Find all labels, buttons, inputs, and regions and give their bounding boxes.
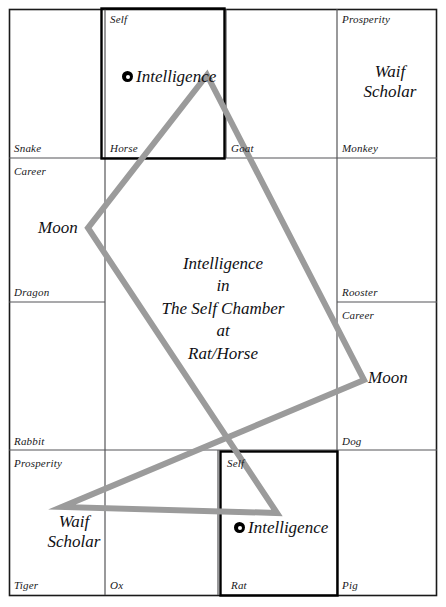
star-waif-scholar-monkey: Waif Scholar: [347, 62, 433, 102]
palace-label-self-horse: Self: [110, 14, 127, 25]
star-waif-scholar-tiger: Waif Scholar: [26, 512, 122, 552]
star-moon-rooster: Moon: [368, 368, 408, 387]
star-name-moon-left: Moon: [38, 218, 78, 237]
star-name-intelligence-top: Intelligence: [136, 68, 216, 85]
star-intelligence-rat: Intelligence: [234, 519, 328, 536]
caption-line-5: Rat/Horse: [113, 343, 333, 365]
caption-line-4: at: [113, 320, 333, 342]
star-name-waif-top: Waif: [347, 62, 433, 82]
palace-label-career-rooster: Career: [342, 310, 374, 321]
sun-disc-icon: [234, 522, 245, 533]
palace-label-career-dragon: Career: [14, 166, 46, 177]
branch-label-pig: Pig: [342, 580, 358, 591]
palace-label-self-rat: Self: [227, 458, 244, 469]
caption-line-2: in: [113, 275, 333, 297]
star-name-scholar-top: Scholar: [347, 82, 433, 102]
center-caption: Intelligence in The Self Chamber at Rat/…: [113, 253, 333, 365]
branch-label-ox: Ox: [110, 580, 123, 591]
star-intelligence-horse: Intelligence: [122, 68, 216, 85]
caption-line-1: Intelligence: [113, 253, 333, 275]
palace-label-prosperity-monkey: Prosperity: [342, 14, 390, 25]
branch-label-rooster: Rooster: [342, 287, 378, 298]
palace-label-prosperity-tiger: Prosperity: [14, 458, 62, 469]
branch-label-goat: Goat: [231, 143, 254, 154]
branch-label-tiger: Tiger: [14, 580, 38, 591]
branch-label-dragon: Dragon: [14, 287, 49, 298]
star-name-moon-right: Moon: [368, 368, 408, 387]
sun-disc-icon: [122, 71, 133, 82]
caption-line-3: The Self Chamber: [113, 298, 333, 320]
branch-label-snake: Snake: [14, 143, 41, 154]
astrology-chart: Snake Horse Goat Monkey Dragon Rooster R…: [0, 0, 446, 607]
branch-label-rabbit: Rabbit: [14, 436, 45, 447]
star-name-scholar-bottom: Scholar: [26, 532, 122, 552]
star-name-intelligence-bottom: Intelligence: [248, 519, 328, 536]
branch-label-rat: Rat: [231, 580, 247, 591]
star-moon-dragon: Moon: [38, 218, 78, 237]
branch-label-dog: Dog: [342, 436, 362, 447]
star-name-waif-bottom: Waif: [26, 512, 122, 532]
branch-label-monkey: Monkey: [342, 143, 378, 154]
branch-label-horse: Horse: [110, 143, 138, 154]
